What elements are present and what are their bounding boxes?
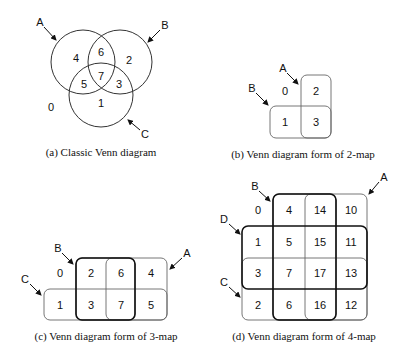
arrow-d-icon bbox=[229, 224, 240, 234]
cell-16: 16 bbox=[314, 299, 326, 311]
cell-14: 14 bbox=[314, 204, 326, 216]
arrow-a-icon bbox=[170, 258, 182, 269]
region-5: 5 bbox=[81, 78, 87, 90]
cell-12: 12 bbox=[345, 299, 357, 311]
cell-1: 1 bbox=[57, 299, 63, 311]
label-b: B bbox=[161, 19, 168, 31]
arrow-b-icon bbox=[148, 30, 160, 42]
cell-0: 0 bbox=[57, 267, 63, 279]
cell-3: 3 bbox=[88, 299, 94, 311]
cell-17: 17 bbox=[314, 267, 326, 279]
cell-5: 5 bbox=[286, 236, 292, 248]
region-6: 6 bbox=[98, 46, 104, 58]
venn-diagram-figure: A B C 4 6 2 5 7 3 1 0 (a) Classic Venn d… bbox=[0, 0, 405, 357]
cell-6: 6 bbox=[118, 267, 124, 279]
cell-15: 15 bbox=[314, 236, 326, 248]
label-b: B bbox=[248, 82, 255, 94]
panel-a-classic-venn: A B C 4 6 2 5 7 3 1 0 (a) Classic Venn d… bbox=[36, 16, 168, 159]
region-b-rect bbox=[270, 106, 331, 138]
cell-2: 2 bbox=[88, 267, 94, 279]
arrow-b-icon bbox=[256, 93, 268, 105]
cell-7: 7 bbox=[286, 267, 292, 279]
region-b-rect bbox=[273, 194, 336, 320]
arrow-b-icon bbox=[259, 191, 270, 201]
cell-6: 6 bbox=[286, 299, 292, 311]
figure-canvas: A B C 4 6 2 5 7 3 1 0 (a) Classic Venn d… bbox=[0, 0, 405, 357]
arrow-b-icon bbox=[62, 253, 73, 264]
caption-b: (b) Venn diagram form of 2-map bbox=[231, 148, 375, 161]
label-a: A bbox=[183, 247, 191, 259]
label-b: B bbox=[251, 180, 258, 192]
cell-5: 5 bbox=[148, 299, 154, 311]
cell-2: 2 bbox=[255, 299, 261, 311]
region-1: 1 bbox=[98, 97, 104, 109]
region-2: 2 bbox=[126, 54, 132, 66]
cell-13: 13 bbox=[345, 267, 357, 279]
cell-0: 0 bbox=[282, 85, 288, 97]
caption-c: (c) Venn diagram form of 3-map bbox=[34, 330, 178, 343]
cell-4: 4 bbox=[148, 267, 154, 279]
label-d: D bbox=[220, 213, 228, 225]
region-4: 4 bbox=[73, 52, 79, 64]
region-0: 0 bbox=[48, 101, 54, 113]
cell-1: 1 bbox=[255, 236, 261, 248]
label-a: A bbox=[279, 62, 287, 74]
arrow-a-icon bbox=[44, 27, 56, 40]
caption-d: (d) Venn diagram form of 4-map bbox=[232, 330, 376, 343]
panel-d-4-map: B A D C 0 4 14 10 1 5 15 11 3 7 17 13 2 … bbox=[220, 171, 388, 343]
cell-2: 2 bbox=[313, 85, 319, 97]
label-b: B bbox=[54, 242, 61, 254]
panel-c-3-map: B A C 0 2 6 4 1 3 7 5 (c) Venn diagram f… bbox=[21, 242, 191, 343]
arrow-c-icon bbox=[229, 287, 240, 297]
cell-0: 0 bbox=[255, 204, 261, 216]
cell-10: 10 bbox=[345, 204, 357, 216]
cell-7: 7 bbox=[118, 299, 124, 311]
arrow-c-icon bbox=[30, 284, 41, 295]
region-3: 3 bbox=[116, 78, 122, 90]
caption-a: (a) Classic Venn diagram bbox=[46, 146, 157, 159]
region-7: 7 bbox=[98, 70, 104, 82]
label-c: C bbox=[21, 273, 29, 285]
arrow-a-icon bbox=[287, 73, 298, 84]
cell-4: 4 bbox=[286, 204, 292, 216]
arrow-c-icon bbox=[128, 120, 140, 130]
cell-3: 3 bbox=[313, 116, 319, 128]
label-a: A bbox=[380, 171, 388, 183]
label-a: A bbox=[36, 16, 44, 28]
panel-b-2-map: A B 0 2 1 3 (b) Venn diagram form of 2-m… bbox=[231, 62, 375, 161]
cell-3: 3 bbox=[255, 267, 261, 279]
arrow-a-icon bbox=[369, 182, 379, 194]
cell-1: 1 bbox=[282, 116, 288, 128]
cell-11: 11 bbox=[345, 236, 356, 248]
label-c: C bbox=[141, 128, 149, 140]
label-c: C bbox=[220, 276, 228, 288]
